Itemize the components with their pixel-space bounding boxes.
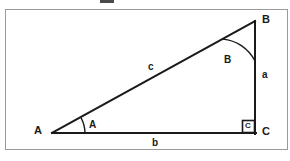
vertex-label-c: C [262,126,270,137]
angle-label-b: B [224,55,231,65]
side-label-a: a [262,70,268,80]
angle-a-arc [81,118,85,133]
side-c-line [52,21,255,133]
vertex-label-a: A [34,125,42,136]
angle-label-a: A [89,120,96,130]
diagram-canvas: A B C a b c A B C [0,0,290,161]
top-edge-artifact [100,0,114,3]
side-label-c: c [148,62,154,72]
triangle-figure [0,0,290,161]
side-label-b: b [152,138,158,148]
vertex-label-b: B [262,14,270,25]
angle-label-c: C [245,122,251,130]
